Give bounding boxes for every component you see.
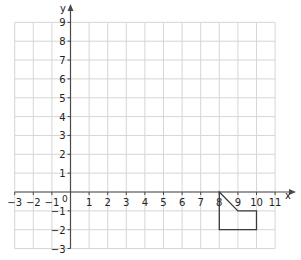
y-tick-label: 5 (59, 93, 65, 104)
x-tick-label: 10 (250, 197, 263, 208)
x-tick-label: 11 (269, 197, 282, 208)
y-tick-label: 6 (59, 74, 65, 85)
x-tick-label: 3 (123, 197, 129, 208)
x-tick-label: 1 (86, 197, 92, 208)
x-tick-label: 6 (179, 197, 185, 208)
y-axis-label: y (60, 3, 66, 14)
y-tick-label: 8 (59, 36, 65, 47)
y-tick-label: 2 (59, 149, 65, 160)
y-axis-arrow-icon (68, 4, 74, 11)
grid-svg: −3−2−11234567891011−3−2−1123456789 x y 0 (0, 0, 301, 260)
tick-labels: −3−2−11234567891011−3−2−1123456789 (7, 17, 281, 254)
x-tick-label: 5 (160, 197, 166, 208)
y-tick-label: 3 (59, 130, 65, 141)
y-tick-label: −2 (51, 225, 66, 236)
y-tick-label: 1 (59, 168, 65, 179)
x-tick-label: 4 (142, 197, 148, 208)
x-tick-label: −3 (7, 197, 22, 208)
y-tick-label: 4 (59, 112, 65, 123)
x-tick-label: 9 (235, 197, 241, 208)
y-tick-label: −1 (51, 206, 66, 217)
x-axis-label: x (285, 190, 291, 201)
y-tick-label: −3 (51, 244, 66, 255)
y-tick-label: 9 (59, 17, 65, 28)
x-tick-label: 7 (198, 197, 204, 208)
origin-label: 0 (62, 194, 68, 204)
x-tick-label: −2 (26, 197, 41, 208)
coordinate-grid-diagram: −3−2−11234567891011−3−2−1123456789 x y 0 (0, 0, 301, 260)
y-tick-label: 7 (59, 55, 65, 66)
x-tick-label: 2 (105, 197, 111, 208)
